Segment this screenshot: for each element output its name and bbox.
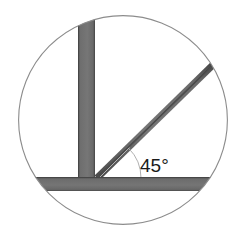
angle-label: 45° [140, 155, 169, 176]
vertical-member [78, 12, 95, 191]
angle-diagram: 45° [0, 0, 246, 250]
diagram-canvas: 45° [0, 0, 246, 250]
horizontal-member [20, 177, 226, 191]
background [0, 0, 246, 250]
